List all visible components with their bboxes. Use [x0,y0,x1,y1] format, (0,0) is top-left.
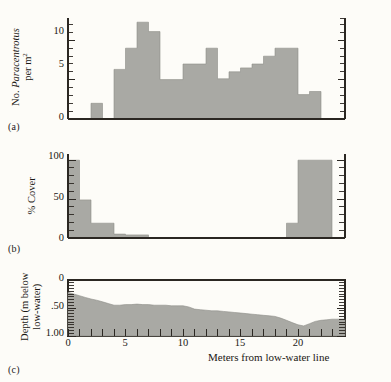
panel-c-label: (c) [8,364,20,375]
panel-b-bars [68,160,332,238]
x-tick-label-5: 5 [115,337,135,348]
panel-a-y-axis-title: No. Paracentrotusper m2 [10,15,34,119]
panel-a-right-axis [338,18,345,119]
panel-b-ytick-0: 0 [30,232,64,243]
panel-a-ytick-10: 10 [36,25,64,36]
panel-a-bars [68,22,332,119]
panel-c-plot [64,274,349,344]
x-tick-label-15: 15 [230,337,250,348]
panel-a-y-axis-title-text: No. Paracentrotusper m2 [10,28,33,106]
panel-a-ytick-0: 0 [36,111,64,122]
panel-a-bar-series [68,22,332,119]
x-tick-label-0: 0 [58,337,78,348]
x-tick-label-20: 20 [288,337,308,348]
panel-b-ytick-50: 50 [30,191,64,202]
panel-c-ytick-0: 0 [26,272,64,283]
panel-b-ytick-100: 100 [30,150,64,161]
panel-b-plot [64,150,349,248]
panel-c-ytick-050: .50 [26,300,64,311]
panel-a-plot [64,14,349,129]
panel-a-left-axis [68,18,75,119]
x-axis-title: Meters from low-water line [208,351,329,363]
squared-exponent: 2 [21,53,29,57]
genus-name-paracentrotus: Paracentrotus [10,28,21,88]
panel-b-right-axis [337,154,345,238]
panel-a-label: (a) [8,121,20,132]
panel-b-bar-series [68,160,332,238]
figure-root: No. Paracentrotusper m2 (a) 10 5 0 [0,0,391,382]
panel-a-ytick-5: 5 [36,58,64,69]
x-tick-label-10: 10 [173,337,193,348]
